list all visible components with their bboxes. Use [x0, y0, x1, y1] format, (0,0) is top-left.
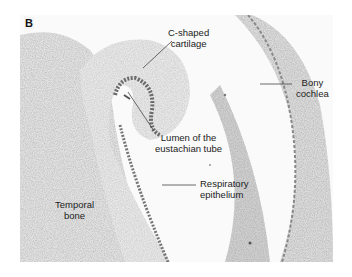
label-c-shaped-cartilage: C-shaped cartilage: [168, 27, 209, 49]
label-temporal-bone: Temporal bone: [55, 199, 94, 221]
histology-figure: B C-shaped cartilage Bony cochlea Lumen …: [0, 0, 352, 277]
label-respiratory-epithelium: Respiratory epithelium: [200, 178, 249, 200]
label-bony-cochlea: Bony cochlea: [296, 77, 329, 99]
panel-label: B: [24, 17, 34, 29]
label-lumen-eustachian-tube: Lumen of the eustachian tube: [155, 132, 222, 154]
